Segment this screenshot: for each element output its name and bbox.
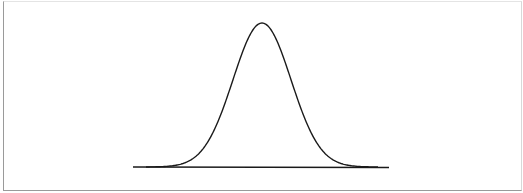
baseline-axis bbox=[133, 167, 389, 168]
bell-curve-diagram bbox=[0, 0, 523, 193]
bell-curve bbox=[146, 23, 378, 167]
